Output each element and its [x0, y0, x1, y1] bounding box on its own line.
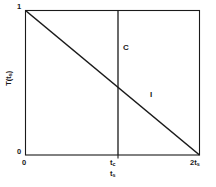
x-tick-label-2ts: 2ts: [190, 159, 200, 167]
x-tick-label-ts: ts: [110, 170, 116, 178]
x-tick-label-tc: tc: [110, 159, 116, 167]
x-tick-label-0: 0: [22, 159, 26, 167]
x-tick-label-ts-subscript: s: [113, 172, 116, 178]
plot-canvas: [0, 0, 216, 187]
y-tick-label-0: 0: [17, 148, 21, 156]
x-tick-label-2ts-subscript: s: [197, 161, 200, 167]
annotation-label-c: C: [123, 44, 129, 52]
annotation-label-i: I: [150, 91, 152, 99]
x-tick-label-tc-subscript: c: [113, 161, 116, 167]
y-tick-label-1: 1: [17, 3, 21, 11]
y-axis-label-tail: ): [4, 71, 13, 74]
y-axis-label: T(ts): [5, 52, 13, 104]
x-tick-label-2ts-main: 2t: [190, 158, 197, 167]
y-axis-label-subscript: s: [7, 73, 13, 76]
y-axis-label-main: T(t: [4, 76, 13, 86]
series-line-incoherent: [26, 11, 200, 156]
figure-container: T(ts) 1 0 0 tc ts 2ts C I: [0, 0, 216, 187]
